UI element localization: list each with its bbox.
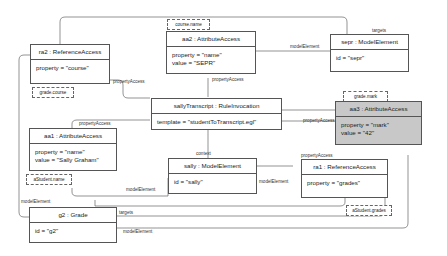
- tag-ra2: grade.course: [32, 87, 74, 98]
- node-attribute: value = "42": [341, 129, 416, 137]
- edge-label-propertyAccess: propertyAccess: [301, 153, 333, 158]
- edge-label-targets: targets: [372, 28, 386, 33]
- node-title: aa3 : AttributeAccess: [336, 102, 421, 117]
- edge-label-modelElement: modelElement: [123, 229, 152, 234]
- edge-label-modelElement: modelElement: [21, 199, 50, 204]
- edge-label-propertyAccess: propertyAccess: [79, 121, 111, 126]
- node-g2[interactable]: g2 : Grade id = "g2": [29, 207, 117, 243]
- node-ra1[interactable]: ra1 : ReferenceAccess property = "grades…: [301, 159, 388, 198]
- node-aa3[interactable]: aa3 : AttributeAccess property = "mark" …: [335, 101, 422, 145]
- node-aa2[interactable]: aa2 : AttributeAccess property = "name" …: [166, 31, 256, 74]
- tag-aa2: course.name: [167, 19, 210, 30]
- edge-label-propertyAccess: propertyAccess: [303, 118, 335, 123]
- edge-label-modelElement: modelElement: [259, 179, 288, 184]
- edge-label-targets: targets: [119, 210, 133, 215]
- node-attribute: property = "mark": [341, 121, 416, 129]
- tag-aa1: aStudent.name: [26, 174, 72, 185]
- node-title: sallyTranscript : RuleInvocation: [152, 99, 281, 114]
- node-attribute: property = "grades": [307, 179, 382, 187]
- node-sallyTranscript[interactable]: sallyTranscript : RuleInvocation templat…: [151, 98, 282, 130]
- node-title: sally : ModelElement: [169, 159, 256, 174]
- node-title: aa2 : AttributeAccess: [167, 32, 255, 47]
- node-attribute: template = "studentToTranscript.egl": [157, 118, 276, 126]
- node-attribute: id = "sally": [174, 178, 251, 186]
- tag-ra1: aStudent.grades: [346, 205, 392, 216]
- node-ra2[interactable]: ra2 : ReferenceAccess property = "course…: [30, 44, 110, 84]
- edge-label-propertyAccess: propertyAccess: [212, 77, 244, 82]
- node-title: sepr : ModelElement: [331, 35, 408, 50]
- edge-label-modelElement: modelElement: [126, 187, 155, 192]
- node-attribute: value = "SEPR": [172, 59, 250, 67]
- edge-label-propertyAccess: propertyAccess: [113, 79, 145, 84]
- node-attribute: id = "g2": [35, 227, 111, 235]
- node-title: g2 : Grade: [30, 208, 116, 223]
- node-title: ra2 : ReferenceAccess: [31, 45, 109, 60]
- node-attribute: property = "name": [172, 51, 250, 59]
- node-title: ra1 : ReferenceAccess: [302, 160, 387, 175]
- node-attribute: value = "Sally Graham": [35, 156, 111, 164]
- edge-label-modelElement: modelElement: [290, 44, 319, 49]
- node-sally[interactable]: sally : ModelElement id = "sally": [168, 158, 257, 194]
- node-attribute: id = "sepr": [336, 54, 403, 62]
- node-sepr[interactable]: sepr : ModelElement id = "sepr": [330, 34, 409, 72]
- node-aa1[interactable]: aa1 : AttributeAccess property = "name" …: [29, 128, 117, 171]
- edge-label-context: context: [196, 151, 211, 156]
- node-attribute: property = "name": [35, 148, 111, 156]
- node-title: aa1 : AttributeAccess: [30, 129, 116, 144]
- node-attribute: property = "course": [36, 64, 104, 72]
